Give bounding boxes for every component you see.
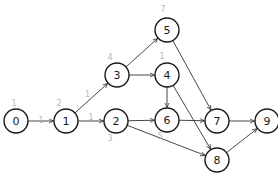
edge-annotation-0-1: 1 bbox=[38, 116, 43, 125]
node-annotation-0: 1 bbox=[11, 99, 16, 108]
node-label: 6 bbox=[164, 114, 171, 127]
node-label: 7 bbox=[214, 115, 221, 128]
edges bbox=[28, 38, 257, 155]
node-annotation-3: 4 bbox=[107, 53, 112, 62]
node-label: 0 bbox=[13, 115, 20, 128]
node-5: 5 bbox=[155, 18, 179, 42]
node-label: 2 bbox=[113, 115, 120, 128]
node-label: 4 bbox=[164, 69, 171, 82]
edge-3-5 bbox=[126, 38, 158, 67]
edge-1-3 bbox=[75, 83, 108, 113]
edge-8-9 bbox=[226, 129, 257, 153]
node-annotations: 1234175 bbox=[11, 5, 165, 143]
node-9: 9 bbox=[255, 109, 278, 133]
node-8: 8 bbox=[205, 148, 229, 172]
node-annotation-4: 1 bbox=[159, 52, 164, 61]
node-6: 6 bbox=[155, 108, 179, 132]
node-1: 1 bbox=[54, 109, 78, 133]
node-annotation-5: 7 bbox=[160, 5, 165, 14]
node-0: 0 bbox=[4, 109, 28, 133]
edge-annotation-1-2: 1 bbox=[88, 113, 93, 122]
node-7: 7 bbox=[205, 109, 229, 133]
directed-graph: 111 0123456789 1234175 bbox=[0, 0, 278, 174]
node-label: 9 bbox=[264, 115, 271, 128]
node-label: 8 bbox=[214, 154, 221, 167]
edge-annotation-1-3: 1 bbox=[85, 90, 90, 99]
node-label: 3 bbox=[114, 69, 121, 82]
node-2: 2 bbox=[104, 109, 128, 133]
edge-6-7 bbox=[179, 120, 205, 121]
node-label: 1 bbox=[63, 115, 70, 128]
node-annotation-6: 5 bbox=[157, 132, 162, 141]
node-4: 4 bbox=[155, 63, 179, 87]
node-annotation-1: 2 bbox=[56, 99, 61, 108]
nodes: 0123456789 bbox=[4, 18, 278, 172]
node-3: 3 bbox=[105, 63, 129, 87]
node-label: 5 bbox=[164, 24, 171, 37]
node-annotation-2: 3 bbox=[107, 134, 112, 143]
edge-2-6 bbox=[128, 120, 155, 121]
